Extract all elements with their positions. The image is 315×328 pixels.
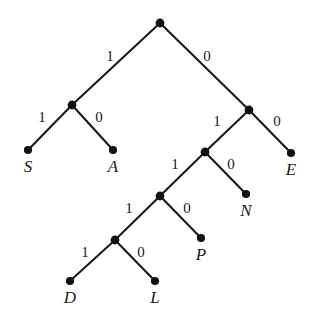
leaf-label-n: N	[240, 202, 251, 219]
tree-edge	[72, 23, 160, 105]
internal-node-dot	[201, 148, 210, 157]
edge-bit-label: 0	[203, 49, 211, 64]
edge-bit-label: 0	[95, 110, 103, 125]
edge-bit-label: 1	[38, 110, 46, 125]
edge-bit-label: 1	[125, 201, 133, 216]
edge-bit-label: 1	[81, 245, 89, 260]
leaf-label-a: A	[108, 158, 118, 175]
coding-tree-figure: 101010101010 SAENPDL	[0, 0, 315, 328]
tree-edge	[115, 240, 155, 281]
internal-node-dot	[156, 192, 165, 201]
tree-edge	[160, 196, 201, 238]
leaf-node-dot	[151, 277, 159, 285]
internal-node-dot	[68, 101, 77, 110]
leaf-label-d: D	[64, 289, 76, 306]
tree-edges	[28, 23, 291, 281]
edge-bit-label: 0	[273, 114, 281, 129]
leaf-label-s: S	[24, 158, 33, 175]
leaf-node-dot	[287, 149, 295, 157]
tree-nodes	[24, 19, 295, 286]
internal-node-dot	[111, 236, 120, 245]
edge-bit-label: 0	[183, 201, 191, 216]
internal-node-dot	[245, 106, 254, 115]
leaf-label-e: E	[286, 161, 296, 178]
tree-edge	[160, 23, 249, 110]
leaf-node-dot	[242, 190, 250, 198]
edge-bit-label: 1	[213, 114, 221, 129]
internal-node-dot	[156, 19, 165, 28]
tree-edge	[115, 196, 160, 240]
leaf-label-l: L	[150, 289, 159, 306]
edge-bit-label: 0	[227, 157, 235, 172]
leaf-node-dot	[66, 277, 74, 285]
tree-edge	[70, 240, 115, 281]
leaf-node-dot	[24, 146, 32, 154]
edge-bit-label: 0	[137, 245, 145, 260]
leaf-node-dot	[109, 146, 117, 154]
tree-edge	[249, 110, 291, 153]
tree-edge	[28, 105, 72, 150]
tree-edge	[205, 110, 249, 152]
tree-edge	[160, 152, 205, 196]
tree-graphics	[0, 0, 315, 328]
tree-edge	[205, 152, 246, 194]
tree-edge	[72, 105, 113, 150]
edge-bit-label: 1	[106, 49, 114, 64]
leaf-label-p: P	[196, 246, 206, 263]
edge-bit-label: 1	[171, 157, 179, 172]
leaf-node-dot	[197, 234, 205, 242]
